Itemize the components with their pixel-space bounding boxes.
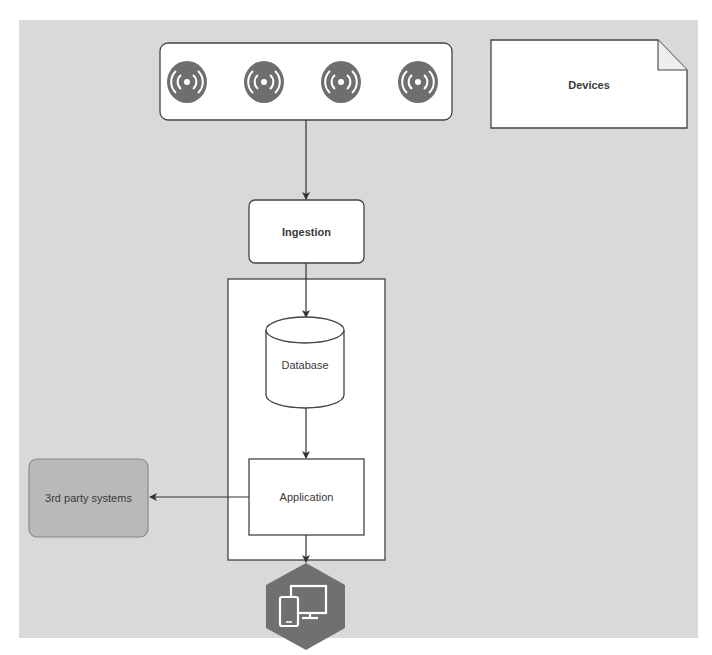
wireless-sensor-icon — [398, 61, 438, 103]
third-party-label: 3rd party systems — [29, 459, 148, 537]
application-label: Application — [249, 459, 364, 535]
ingestion-label: Ingestion — [249, 200, 364, 263]
wireless-sensor-icon — [244, 61, 284, 103]
wireless-sensor-icon — [167, 61, 207, 103]
devices-note-label: Devices — [491, 70, 687, 100]
diagram-canvas: Devices Ingestion Database Application 3… — [0, 0, 712, 655]
clients-node[interactable] — [266, 563, 345, 650]
wireless-sensor-icon — [321, 61, 361, 103]
database-label: Database — [266, 345, 344, 385]
devices-group[interactable] — [160, 43, 452, 120]
